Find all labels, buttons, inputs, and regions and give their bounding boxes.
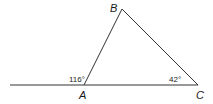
angle-label-exterior-a: 116° [69,75,85,84]
vertex-label-c: C [196,89,204,101]
vertex-label-a: A [78,89,86,101]
angle-label-c: 42° [169,75,181,84]
triangle-diagram: B A C 116° 42° [0,0,213,104]
side-bc [122,9,198,85]
side-ab [84,9,122,85]
vertex-label-b: B [110,2,117,14]
